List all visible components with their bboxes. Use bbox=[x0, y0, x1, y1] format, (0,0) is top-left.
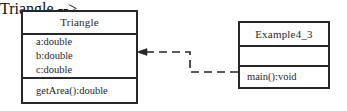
class-box-example4-3[interactable]: Example4_3 main():void bbox=[238, 21, 330, 89]
attribute-item: c:double bbox=[36, 63, 136, 77]
operations-compartment-triangle: getArea():double bbox=[23, 77, 136, 102]
class-name-compartment: Example4_3 bbox=[240, 23, 328, 45]
class-name-triangle: Triangle bbox=[23, 16, 136, 28]
dependency-arrowhead-icon bbox=[137, 49, 147, 56]
class-name-compartment: Triangle bbox=[23, 12, 136, 33]
operation-item: main():void bbox=[247, 70, 328, 84]
dependency-line bbox=[144, 52, 238, 72]
attribute-item: b:double bbox=[36, 49, 136, 63]
attributes-compartment-example4-3 bbox=[240, 45, 328, 66]
attribute-item: a:double bbox=[36, 35, 136, 49]
class-name-example4-3: Example4_3 bbox=[240, 28, 328, 40]
operations-compartment-example4-3: main():void bbox=[240, 65, 328, 87]
uml-class-diagram: Triangle a:double b:double c:double getA… bbox=[0, 0, 347, 111]
operation-item: getArea():double bbox=[36, 84, 136, 98]
attributes-compartment-triangle: a:double b:double c:double bbox=[23, 33, 136, 78]
class-box-triangle[interactable]: Triangle a:double b:double c:double getA… bbox=[21, 10, 138, 104]
